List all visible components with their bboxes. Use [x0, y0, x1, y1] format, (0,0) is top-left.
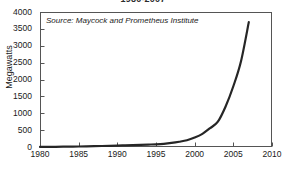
chart-figure: 1980-2007 Megawatts 05001000150020002500… — [0, 0, 286, 171]
plot-area — [0, 0, 286, 171]
axis-ticks — [41, 13, 273, 148]
axes-frame — [41, 13, 272, 147]
data-series-line — [40, 22, 249, 147]
